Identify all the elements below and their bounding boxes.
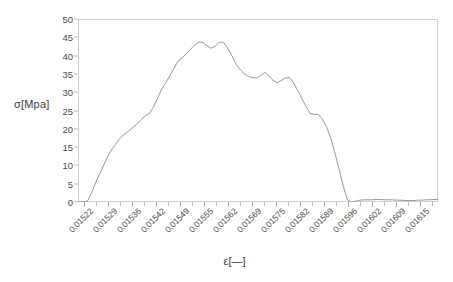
- y-tick-mark: [74, 165, 78, 166]
- x-tick-label: 0,01602: [355, 206, 383, 234]
- y-tick-mark: [74, 110, 78, 111]
- y-tick-label: 5: [68, 178, 73, 189]
- y-tick-mark: [74, 73, 78, 74]
- x-tick-label: 0,01589: [307, 206, 335, 234]
- y-tick-mark: [74, 37, 78, 38]
- x-tick-label: 0,01536: [115, 206, 143, 234]
- y-tick-label: 20: [62, 123, 73, 134]
- y-tick-label: 50: [62, 14, 73, 25]
- x-tick-label: 0,01549: [163, 206, 191, 234]
- x-tick-label: 0,01575: [259, 206, 287, 234]
- y-tick-label: 0: [68, 197, 73, 208]
- y-axis-title: σ[Mpa]: [14, 98, 50, 110]
- y-tick-mark: [74, 92, 78, 93]
- y-tick-label: 45: [62, 32, 73, 43]
- x-tick-label: 0,01529: [91, 206, 119, 234]
- chart-page: σ[Mpa] 05101520253035404550 0,015220,015…: [0, 0, 453, 282]
- data-series-group: [78, 42, 438, 202]
- chart-canvas: [78, 19, 438, 202]
- x-tick-label: 0,01562: [211, 206, 239, 234]
- y-tick-label: 30: [62, 87, 73, 98]
- y-tick-label: 35: [62, 68, 73, 79]
- x-axis-title: ε[—]: [0, 255, 453, 267]
- y-tick-label: 40: [62, 50, 73, 61]
- x-tick-label: 0,01555: [187, 206, 215, 234]
- plot-area: 05101520253035404550: [78, 19, 438, 202]
- y-tick-mark: [74, 19, 78, 20]
- x-tick-label: 0,01609: [379, 206, 407, 234]
- x-tick-label: 0,01615: [403, 206, 431, 234]
- x-tick-label: 0,01542: [139, 206, 167, 234]
- x-axis-title-text: ε[—]: [223, 255, 245, 267]
- x-axis-tick-labels: 0,015220,015290,015360,015420,015490,015…: [78, 206, 438, 254]
- y-tick-mark: [74, 128, 78, 129]
- y-tick-mark: [74, 147, 78, 148]
- y-tick-mark: [74, 183, 78, 184]
- x-tick-label: 0,01522: [67, 206, 95, 234]
- y-tick-label: 15: [62, 142, 73, 153]
- data-line-stress-strain: [78, 42, 356, 202]
- x-tick-label: 0,01582: [283, 206, 311, 234]
- x-tick-label: 0,01596: [331, 206, 359, 234]
- y-tick-mark: [74, 55, 78, 56]
- x-tick-label: 0,01569: [235, 206, 263, 234]
- y-tick-label: 25: [62, 105, 73, 116]
- y-tick-label: 10: [62, 160, 73, 171]
